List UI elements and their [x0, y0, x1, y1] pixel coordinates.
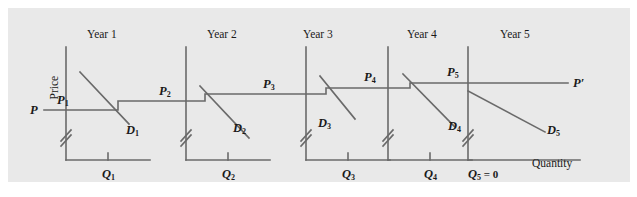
panel-4-quantity-subscript: 4	[433, 173, 437, 182]
panel-4-demand-symbol: D	[448, 119, 457, 133]
panel-1-price-symbol: P	[57, 93, 65, 107]
panel-3-demand-label: D3	[318, 117, 331, 130]
figure-root: Price Quantity Year 1 Year 2 Year 3 Year…	[0, 0, 637, 197]
panel-5-price-label: P5	[447, 66, 459, 79]
panel-2-quantity-symbol: Q	[222, 167, 231, 181]
panel-2-quantity-label: Q2	[222, 168, 235, 181]
panel-4-price-label: P4	[364, 71, 376, 84]
panel-5-quantity-subscript: 5	[477, 173, 481, 182]
price-end-prime: ′	[581, 76, 585, 90]
panel-3-demand-curve-d3	[320, 76, 355, 119]
panel-5-demand-subscript: 5	[556, 129, 560, 138]
panel-4-year-title: Year 4	[407, 29, 437, 41]
panel-4-demand-subscript: 4	[457, 125, 461, 134]
panel-5-quantity-note: = 0	[481, 168, 498, 180]
panel-3-price-symbol: P	[263, 77, 271, 91]
price-end-label: P′	[573, 77, 584, 90]
panel-2-demand-label: D2	[233, 122, 246, 135]
panel-3-quantity-subscript: 3	[351, 173, 355, 182]
panel-3-quantity-label: Q3	[342, 168, 355, 181]
panel-4-price-symbol: P	[364, 70, 372, 84]
panel-5-price-subscript: 5	[455, 71, 459, 80]
panel-2-demand-subscript: 2	[242, 127, 246, 136]
price-end-text: P	[573, 76, 581, 90]
panel-1-demand-curve-d1	[80, 72, 129, 124]
panel-3-demand-symbol: D	[318, 116, 327, 130]
panel-3-demand-subscript: 3	[327, 122, 331, 131]
price-start-label: P	[30, 104, 38, 117]
panel-5-demand-curve-d5	[468, 91, 545, 132]
panel-1-price-subscript: 1	[65, 99, 69, 108]
panel-5-year-title: Year 5	[500, 29, 530, 41]
panel-5-demand-label: D5	[547, 124, 560, 137]
panel-1-quantity-label: Q1	[102, 168, 115, 181]
panel-4-quantity-symbol: Q	[424, 167, 433, 181]
panel-3-price-label: P3	[263, 78, 275, 91]
panel-1-demand-subscript: 1	[135, 129, 139, 138]
panel-4-quantity-label: Q4	[424, 168, 437, 181]
panel-5-quantity-label: Q5 = 0	[468, 168, 498, 181]
panel-1-quantity-subscript: 1	[111, 173, 115, 182]
panel-2-price-label: P2	[159, 85, 171, 98]
panel-2-price-subscript: 2	[167, 90, 171, 99]
panel-1-demand-symbol: D	[126, 123, 135, 137]
panel-2-quantity-subscript: 2	[231, 173, 235, 182]
panel-5-price-symbol: P	[447, 65, 455, 79]
panel-5-quantity-symbol: Q	[468, 167, 477, 181]
panel-2-price-symbol: P	[159, 84, 167, 98]
panel-2-year-title: Year 2	[207, 29, 237, 41]
panel-3-year-title: Year 3	[303, 29, 333, 41]
panel-1-year-title: Year 1	[87, 29, 117, 41]
panel-5-demand-symbol: D	[547, 123, 556, 137]
panel-1-price-label: P1	[57, 94, 69, 107]
panel-2-demand-symbol: D	[233, 121, 242, 135]
panel-3-quantity-symbol: Q	[342, 167, 351, 181]
panel-1-quantity-symbol: Q	[102, 167, 111, 181]
panel-1-demand-label: D1	[126, 124, 139, 137]
price-start-text: P	[30, 103, 38, 117]
quantity-axis-label: Quantity	[532, 158, 572, 170]
panel-3-price-subscript: 3	[271, 83, 275, 92]
panel-4-price-subscript: 4	[372, 76, 376, 85]
panel-4-demand-label: D4	[448, 120, 461, 133]
